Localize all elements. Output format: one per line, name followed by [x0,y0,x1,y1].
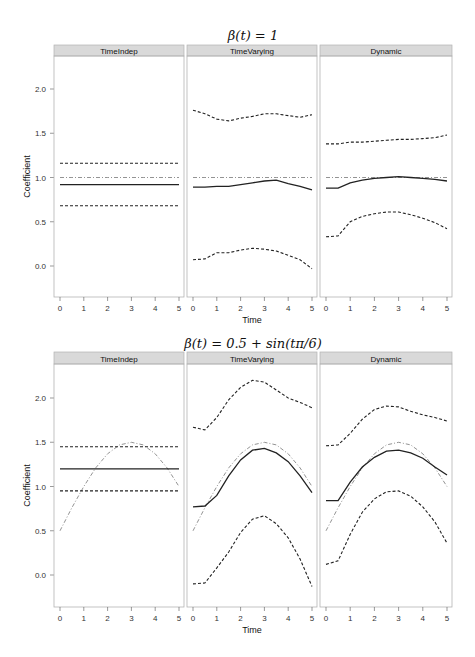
x-tick-label: 2 [372,614,377,623]
panel-timeindep: TimeIndep012345 [54,45,184,313]
x-tick-label: 0 [191,614,196,623]
true-beta-line [326,442,447,531]
y-tick-label: 1.0 [35,174,47,183]
x-tick-label: 1 [348,614,353,623]
row-title: β(t) = 1 [227,28,278,43]
x-tick-label: 5 [445,304,450,313]
row-title: β(t) = 0.5 + sin(tπ/6) [183,336,322,351]
x-tick-label: 1 [82,304,87,313]
y-tick-label: 1.5 [35,129,47,138]
panel-strip-label: Dynamic [370,355,401,364]
ci-upper-line [193,380,312,430]
x-axis-label: Time [242,315,262,325]
estimate-line [193,448,312,507]
x-tick-label: 5 [445,614,450,623]
ci-upper-line [326,406,447,446]
panel-frame [187,364,317,607]
ci-lower-line [193,248,312,268]
panel-dynamic: Dynamic012345 [320,45,452,313]
x-axis-label: Time [242,625,262,635]
x-tick-label: 4 [421,614,426,623]
x-tick-label: 0 [58,614,63,623]
x-tick-label: 1 [215,304,220,313]
x-tick-label: 2 [238,304,243,313]
panel-timeindep: TimeIndep012345 [54,352,184,623]
panel-dynamic: Dynamic012345 [320,352,452,623]
x-tick-label: 5 [310,304,315,313]
x-tick-label: 0 [324,614,329,623]
ci-lower-line [193,516,312,587]
x-tick-label: 2 [372,304,377,313]
x-tick-label: 1 [82,614,87,623]
panel-lines [326,135,447,237]
x-tick-label: 3 [262,304,267,313]
x-tick-label: 0 [324,304,329,313]
ci-upper-line [193,110,312,121]
x-tick-label: 1 [215,614,220,623]
chart-rows: β(t) = 10.00.51.01.52.0CoefficientTimeIn… [22,28,452,635]
x-tick-label: 4 [153,614,158,623]
x-tick-label: 4 [421,304,426,313]
panel-strip-label: TimeIndep [100,47,138,56]
x-tick-label: 2 [105,614,110,623]
panel-strip-label: TimeIndep [100,355,138,364]
y-tick-label: 0.0 [35,262,47,271]
x-tick-label: 4 [286,614,291,623]
chart-row-1: β(t) = 10.00.51.01.52.0CoefficientTimeIn… [22,28,452,325]
x-tick-label: 0 [191,304,196,313]
y-tick-label: 1.0 [35,483,47,492]
panel-strip-label: TimeVarying [230,355,274,364]
chart-row-2: β(t) = 0.5 + sin(tπ/6)0.00.51.01.52.0Coe… [22,336,452,635]
panel-timevarying: TimeVarying012345 [187,352,317,623]
panel-frame [320,364,452,607]
panel-frame [320,56,452,297]
x-tick-label: 3 [129,304,134,313]
coefficient-trellis-chart: β(t) = 10.00.51.01.52.0CoefficientTimeIn… [0,0,475,657]
y-tick-label: 0.5 [35,527,47,536]
estimate-line [193,180,312,190]
y-tick-label: 0.5 [35,218,47,227]
estimate-line [326,177,447,189]
x-tick-label: 5 [177,614,182,623]
panel-strip-label: TimeVarying [230,47,274,56]
true-beta-line [193,442,312,531]
panel-frame [54,364,184,607]
ci-lower-line [326,212,447,237]
panel-frame [187,56,317,297]
y-tick-label: 0.0 [35,571,47,580]
panel-lines [193,380,312,586]
x-tick-label: 3 [396,304,401,313]
panel-lines [326,406,447,564]
x-tick-label: 4 [286,304,291,313]
panel-frame [54,56,184,297]
estimate-line [326,450,447,501]
y-tick-label: 1.5 [35,438,47,447]
y-axis-label: Coefficient [22,155,32,198]
x-tick-label: 3 [262,614,267,623]
x-tick-label: 2 [238,614,243,623]
x-tick-label: 5 [310,614,315,623]
panel-lines [193,110,312,269]
true-beta-line [60,442,179,531]
x-tick-label: 5 [177,304,182,313]
x-tick-label: 2 [105,304,110,313]
panel-lines [60,442,179,531]
x-tick-label: 4 [153,304,158,313]
y-tick-label: 2.0 [35,394,47,403]
ci-lower-line [326,491,447,565]
y-axis-label: Coefficient [22,464,32,507]
x-tick-label: 0 [58,304,63,313]
ci-upper-line [326,135,447,144]
x-tick-label: 3 [129,614,134,623]
panel-strip-label: Dynamic [370,47,401,56]
panel-lines [60,163,179,206]
y-tick-label: 2.0 [35,85,47,94]
x-tick-label: 1 [348,304,353,313]
x-tick-label: 3 [396,614,401,623]
panel-timevarying: TimeVarying012345 [187,45,317,313]
